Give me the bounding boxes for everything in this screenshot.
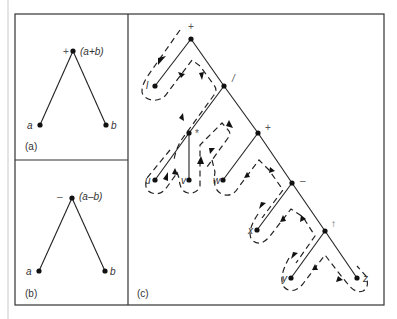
- arrowhead-icon: [163, 172, 168, 181]
- node-leaf-z: [354, 275, 359, 280]
- node-label-l: l: [146, 80, 149, 91]
- tour-segment: [142, 30, 216, 160]
- arrowhead-icon: [172, 168, 178, 175]
- node-leaf-u: [152, 177, 157, 182]
- expression-tree-figure: + (a+b) a b (a) – (a–b) a b (b): [0, 0, 397, 319]
- node-label-x: x: [247, 225, 254, 236]
- leaf-label-b: b: [110, 266, 116, 277]
- edge: [223, 133, 258, 180]
- node-divide: [221, 83, 226, 88]
- edge: [189, 86, 224, 133]
- edge: [155, 133, 189, 180]
- root-node: [70, 48, 75, 53]
- leaf-node-b: [102, 268, 107, 273]
- node-label-power: ↑: [331, 218, 336, 229]
- node-label-divide: /: [231, 73, 236, 84]
- node-leaf-l: [152, 83, 157, 88]
- edge: [257, 183, 292, 230]
- edge-root-a: [39, 198, 72, 271]
- root-expression: (a+b): [80, 46, 104, 57]
- node-label-y: y: [281, 273, 288, 284]
- leaf-node-a: [36, 268, 41, 273]
- arrowhead-icon: [269, 167, 275, 173]
- edge: [258, 133, 292, 183]
- leaf-label-a: a: [27, 120, 33, 131]
- node-leaf-y: [288, 275, 293, 280]
- arrowhead-icon: [199, 72, 204, 80]
- panel-b: – (a–b) a b (b): [25, 191, 116, 299]
- arrowhead-icon: [336, 276, 343, 282]
- edge: [155, 39, 191, 86]
- arrowhead-icon: [158, 56, 166, 65]
- arrowhead-icon: [179, 113, 184, 121]
- root-node: [69, 195, 74, 200]
- edge-root-b: [72, 198, 105, 271]
- arrowhead-icon: [312, 264, 318, 270]
- node-minus: [289, 180, 294, 185]
- panel-c: + l / * u v + w – x ↑ y z (c): [137, 21, 368, 299]
- node-label-z: z: [362, 273, 368, 284]
- root-operator: +: [63, 46, 69, 57]
- panel-caption-b: (b): [25, 288, 37, 299]
- leaf-label-b: b: [111, 120, 117, 131]
- node-label-root: +: [188, 21, 194, 32]
- node-label-u: u: [145, 175, 151, 186]
- arrowhead-icon: [259, 202, 266, 209]
- leaf-node-a: [37, 122, 42, 127]
- edge-root-a: [40, 51, 73, 125]
- node-label-plus: +: [265, 122, 271, 133]
- traversal-path: [142, 30, 368, 292]
- arrowhead-icon: [197, 156, 204, 164]
- node-label-v: v: [181, 175, 187, 186]
- arrowhead-icon: [226, 120, 233, 128]
- node-power: [322, 228, 327, 233]
- edge: [292, 183, 325, 231]
- node-leaf-w: [220, 177, 225, 182]
- panel-caption-a: (a): [25, 141, 37, 152]
- leaf-label-a: a: [26, 266, 32, 277]
- edge-root-b: [73, 51, 106, 125]
- panel-caption-c: (c): [137, 288, 149, 299]
- node-label-w: w: [213, 175, 221, 186]
- node-label-multiply: *: [195, 128, 199, 139]
- tree-nodes: [152, 36, 359, 280]
- arrowhead-icon: [291, 252, 298, 259]
- node-label-minus: –: [300, 175, 306, 186]
- root-operator: –: [57, 191, 63, 202]
- edge: [325, 231, 357, 278]
- node-root: [188, 36, 193, 41]
- node-multiply: [186, 130, 191, 135]
- node-plus: [255, 130, 260, 135]
- panel-a: + (a+b) a b (a): [25, 46, 117, 152]
- leaf-node-b: [103, 122, 108, 127]
- root-expression: (a–b): [79, 191, 102, 202]
- traversal-arrows: [158, 56, 343, 282]
- node-leaf-v: [186, 177, 191, 182]
- arrowhead-icon: [209, 148, 215, 154]
- node-leaf-x: [254, 227, 259, 232]
